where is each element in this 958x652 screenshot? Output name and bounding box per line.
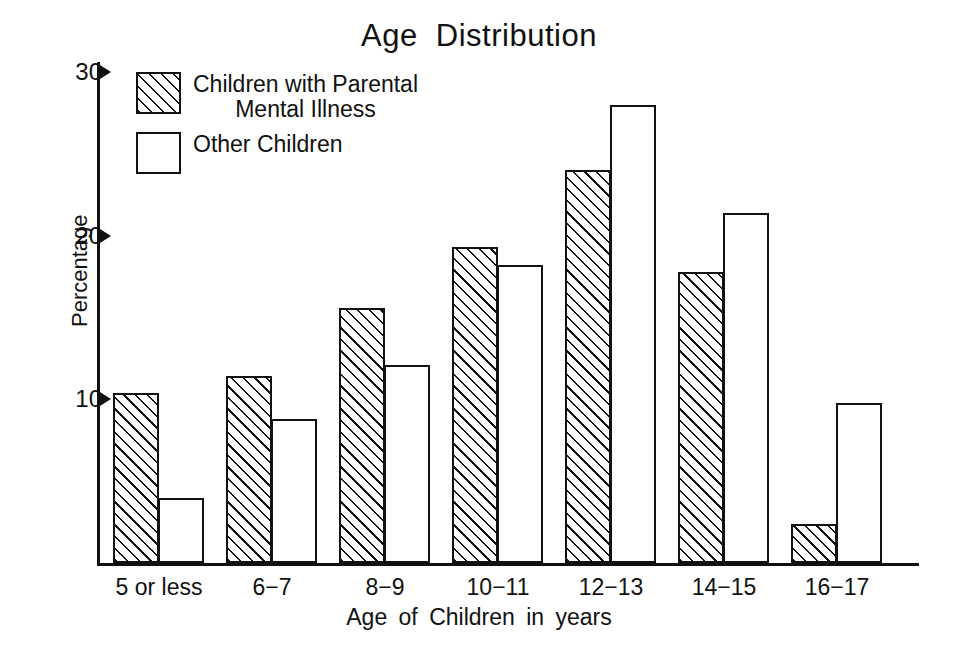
bar: [271, 419, 317, 563]
x-axis-tick-label: 16−17: [757, 574, 917, 601]
bar: [384, 365, 430, 563]
bar: [158, 498, 204, 563]
y-axis-tick-label: 30: [75, 60, 102, 84]
legend-label-line2: Mental Illness: [193, 97, 418, 122]
y-axis-tick: 30: [100, 65, 111, 79]
bar: [836, 403, 882, 563]
bar: [452, 247, 498, 563]
legend-label: Children with ParentalMental Illness: [193, 72, 418, 122]
legend-item: Other Children: [136, 132, 418, 174]
y-axis-tick: 20: [100, 229, 111, 243]
legend-swatch: [136, 132, 181, 174]
bar: [339, 308, 385, 563]
y-axis-line: [97, 62, 100, 566]
y-axis-tick: 10: [100, 392, 111, 406]
y-axis-tick-label: 10: [75, 387, 102, 411]
bar: [678, 272, 724, 563]
legend-swatch: [136, 72, 181, 114]
bar: [565, 170, 611, 563]
chart-title: Age Distribution: [0, 18, 958, 54]
legend-item: Children with ParentalMental Illness: [136, 72, 418, 122]
y-axis-title: Percentage: [67, 214, 93, 327]
bar: [113, 393, 159, 563]
legend: Children with ParentalMental IllnessOthe…: [136, 72, 418, 184]
legend-label: Other Children: [193, 132, 343, 157]
x-axis-title: Age of Children in years: [0, 604, 958, 631]
bar: [791, 524, 837, 563]
chart-page: Age Distribution 102030 Percentage 5 or …: [0, 0, 958, 652]
bar: [226, 376, 272, 563]
bar: [610, 105, 656, 563]
bar: [723, 213, 769, 563]
x-axis-line: [97, 563, 919, 566]
bar: [497, 265, 543, 563]
